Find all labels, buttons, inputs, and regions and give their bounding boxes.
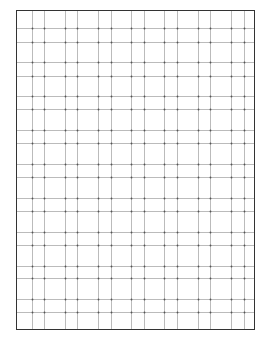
grid-intersection-dot (231, 312, 233, 314)
grid-intersection-dot (44, 76, 46, 78)
grid-intersection-dot (164, 211, 166, 213)
grid-intersection-dot (65, 312, 67, 314)
grid-intersection-dot (198, 232, 200, 234)
grid-intersection-dot (98, 266, 100, 268)
grid-intersection-dot (210, 62, 212, 64)
grid-lines (0, 0, 271, 345)
grid-intersection-dot (177, 143, 179, 145)
grid-intersection-dot (144, 312, 146, 314)
grid-intersection-dot (144, 130, 146, 132)
grid-intersection-dot (177, 42, 179, 44)
grid-intersection-dot (111, 232, 113, 234)
grid-intersection-dot (198, 28, 200, 30)
grid-intersection-dot (65, 299, 67, 301)
grid-intersection-dot (77, 109, 79, 111)
grid-intersection-dot (231, 130, 233, 132)
grid-intersection-dot (177, 76, 179, 78)
grid-intersection-dot (98, 278, 100, 280)
grid-intersection-dot (32, 164, 34, 166)
grid-intersection-dot (44, 143, 46, 145)
grid-intersection-dot (164, 312, 166, 314)
grid-intersection-dot (111, 299, 113, 301)
grid-intersection-dot (210, 28, 212, 30)
grid-intersection-dot (210, 42, 212, 44)
grid-intersection-dot (44, 299, 46, 301)
grid-intersection-dot (65, 198, 67, 200)
grid-intersection-dot (164, 96, 166, 98)
grid-intersection-dot (177, 232, 179, 234)
grid-intersection-dot (231, 28, 233, 30)
grid-intersection-dot (111, 62, 113, 64)
grid-intersection-dot (244, 266, 246, 268)
grid-intersection-dot (231, 96, 233, 98)
grid-intersection-dot (244, 96, 246, 98)
grid-intersection-dot (111, 109, 113, 111)
grid-intersection-dot (77, 62, 79, 64)
grid-intersection-dot (98, 28, 100, 30)
grid-intersection-dot (44, 211, 46, 213)
grid-intersection-dot (131, 299, 133, 301)
grid-intersection-dot (77, 143, 79, 145)
grid-intersection-dot (131, 96, 133, 98)
grid-intersection-dot (164, 278, 166, 280)
grid-intersection-dot (131, 312, 133, 314)
grid-intersection-dot (131, 198, 133, 200)
grid-intersection-dot (98, 211, 100, 213)
grid-intersection-dot (231, 177, 233, 179)
grid-intersection-dot (210, 96, 212, 98)
grid-intersection-dot (177, 62, 179, 64)
grid-intersection-dot (32, 211, 34, 213)
grid-intersection-dot (244, 109, 246, 111)
grid-intersection-dot (32, 76, 34, 78)
grid-intersection-dot (231, 232, 233, 234)
grid-intersection-dot (77, 312, 79, 314)
grid-intersection-dot (144, 76, 146, 78)
grid-intersection-dot (65, 232, 67, 234)
grid-intersection-dot (131, 211, 133, 213)
grid-intersection-dot (231, 278, 233, 280)
grid-intersection-dot (198, 130, 200, 132)
grid-intersection-dot (32, 109, 34, 111)
grid-intersection-dot (198, 62, 200, 64)
grid-intersection-dot (210, 177, 212, 179)
grid-intersection-dot (111, 76, 113, 78)
grid-intersection-dot (98, 164, 100, 166)
grid-intersection-dot (210, 76, 212, 78)
grid-intersection-dot (131, 130, 133, 132)
grid-intersection-dot (177, 266, 179, 268)
grid-intersection-dot (77, 28, 79, 30)
grid-intersection-dot (44, 42, 46, 44)
grid-intersection-dot (144, 177, 146, 179)
grid-intersection-dot (98, 42, 100, 44)
grid-intersection-dot (65, 266, 67, 268)
grid-intersection-dot (77, 266, 79, 268)
grid-intersection-dot (111, 198, 113, 200)
grid-intersection-dot (111, 245, 113, 247)
grid-intersection-dot (210, 130, 212, 132)
grid-intersection-dot (144, 232, 146, 234)
grid-intersection-dot (177, 177, 179, 179)
grid-intersection-dot (131, 42, 133, 44)
grid-intersection-dot (144, 143, 146, 145)
grid-intersection-dot (111, 130, 113, 132)
grid-intersection-dot (244, 76, 246, 78)
grid-intersection-dot (32, 62, 34, 64)
grid-intersection-dot (77, 232, 79, 234)
grid-intersection-dot (198, 177, 200, 179)
grid-intersection-dot (98, 62, 100, 64)
grid-intersection-dot (198, 109, 200, 111)
grid-intersection-dot (98, 76, 100, 78)
grid-intersection-dot (32, 143, 34, 145)
grid-intersection-dot (144, 198, 146, 200)
grid-intersection-dot (144, 62, 146, 64)
grid-intersection-dot (231, 109, 233, 111)
grid-intersection-dot (77, 42, 79, 44)
grid-intersection-dot (77, 245, 79, 247)
grid-intersection-dot (144, 278, 146, 280)
grid-intersection-dot (111, 164, 113, 166)
grid-intersection-dot (164, 198, 166, 200)
grid-intersection-dot (111, 143, 113, 145)
grid-intersection-dot (177, 96, 179, 98)
grid-intersection-dot (131, 278, 133, 280)
grid-intersection-dot (210, 143, 212, 145)
